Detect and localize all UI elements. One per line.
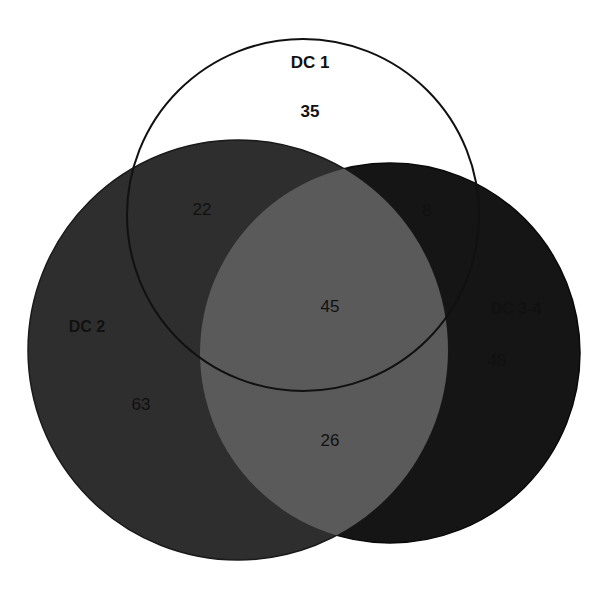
label-dc1: DC 1 [291, 53, 330, 72]
count-dc34-only: 48 [488, 351, 507, 370]
label-dc2: DC 2 [69, 318, 106, 335]
count-dc2-dc34: 26 [321, 431, 340, 450]
count-dc1-dc2: 22 [193, 200, 212, 219]
count-dc1-only: 35 [301, 102, 320, 121]
venn-diagram: DC 1 DC 2 DC 3-4 35 22 8 45 63 48 26 [0, 0, 608, 592]
count-dc1-dc34: 8 [422, 201, 431, 220]
count-all-three: 45 [321, 297, 340, 316]
count-dc2-only: 63 [132, 395, 151, 414]
label-dc34: DC 3-4 [491, 300, 542, 317]
